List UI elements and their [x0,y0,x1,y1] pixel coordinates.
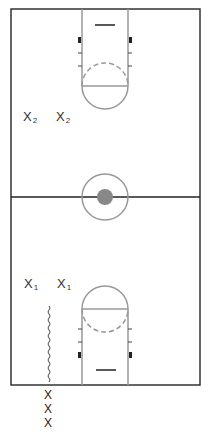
top-block-left [78,37,81,43]
player-x1-right: X1 [57,277,71,292]
dribble-path-wavy-line [48,306,50,382]
bottom-block-right [129,352,132,358]
bottom-ft-circle-dashed [82,309,128,332]
center-jump-circle [97,189,113,205]
bottom-ft-circle-solid [82,286,128,309]
basketball-court-diagram [0,0,208,443]
player-x2-left: X2 [23,110,37,125]
player-x1-left: X1 [24,277,38,292]
top-block-right [129,37,132,43]
waiting-player-1: X [44,389,52,401]
top-ft-circle-solid [82,86,128,109]
bottom-block-left [78,352,81,358]
bottom-key [78,286,132,385]
waiting-player-3: X [44,417,52,429]
waiting-player-2: X [44,403,52,415]
top-ft-circle-dashed [82,63,128,86]
player-x2-right: X2 [56,110,70,125]
top-key [78,9,132,109]
